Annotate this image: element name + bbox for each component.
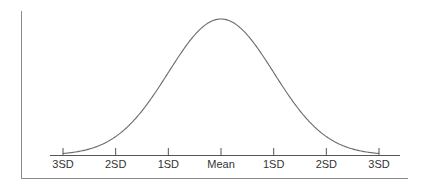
bell-curve — [63, 19, 379, 153]
x-axis-label: Mean — [207, 158, 235, 170]
x-axis-ticks: 3SD2SD1SDMean1SD2SD3SD — [52, 148, 389, 170]
x-axis-label: 1SD — [263, 158, 284, 170]
x-axis-label: 1SD — [158, 158, 179, 170]
x-axis-label: 3SD — [52, 158, 73, 170]
x-axis-label: 2SD — [316, 158, 337, 170]
x-axis-label: 2SD — [105, 158, 126, 170]
x-axis-label: 3SD — [368, 158, 389, 170]
normal-distribution-figure: 3SD2SD1SDMean1SD2SD3SD — [0, 0, 422, 186]
